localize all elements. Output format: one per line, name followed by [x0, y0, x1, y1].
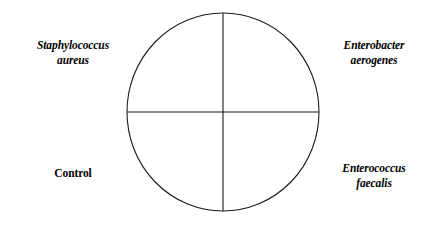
- quadrant-label-enterobacter-aerogenes: Enterobacter aerogenes: [322, 38, 426, 68]
- quadrant-label-line-1: Staphylococcus: [18, 38, 128, 53]
- quadrant-label-control: Control: [18, 166, 128, 181]
- figure-canvas: Staphylococcus aureus Enterobacter aerog…: [0, 0, 432, 225]
- quadrant-label-line-1: Enterococcus: [322, 161, 426, 176]
- petri-plate-diagram: [0, 0, 432, 225]
- quadrant-label-line-2: aureus: [18, 53, 128, 68]
- quadrant-label-line-2: faecalis: [322, 176, 426, 191]
- quadrant-label-line-2: aerogenes: [322, 53, 426, 68]
- quadrant-label-staphylococcus-aureus: Staphylococcus aureus: [18, 38, 128, 68]
- quadrant-label-line-1: Control: [18, 166, 128, 181]
- quadrant-label-enterococcus-faecalis: Enterococcus faecalis: [322, 161, 426, 191]
- quadrant-label-line-1: Enterobacter: [322, 38, 426, 53]
